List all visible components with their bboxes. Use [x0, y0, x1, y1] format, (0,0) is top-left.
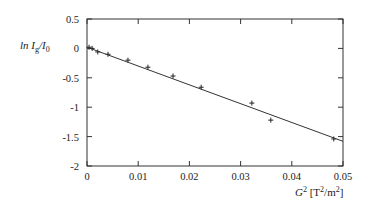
- tick-labels: 00.010.020.030.040.050.50-0.5-1-1.5-2: [62, 14, 352, 182]
- data-point-plus-marker: [268, 118, 273, 123]
- y-tick-label: 0: [74, 43, 79, 54]
- y-tick-label: -2: [70, 161, 79, 172]
- y-label-sub2: 0: [46, 45, 50, 54]
- y-tick-label: -0.5: [62, 73, 79, 84]
- axis-ticks: [87, 19, 343, 166]
- x-label-rest2: /m: [324, 186, 336, 198]
- data-series: [87, 45, 343, 142]
- data-point-plus-marker: [249, 101, 254, 106]
- x-tick-label: 0: [84, 171, 89, 182]
- plot-frame: [87, 19, 343, 166]
- y-tick-label: -1.5: [62, 132, 79, 143]
- x-label-rest3: ]: [340, 186, 344, 198]
- y-tick-label: 0.5: [66, 14, 79, 25]
- x-axis-title: G2 [T2/m2]: [295, 185, 343, 198]
- x-tick-label: 0.05: [334, 171, 352, 182]
- x-tick-label: 0.02: [180, 171, 198, 182]
- x-tick-label: 0.04: [283, 171, 302, 182]
- x-label-main: G: [295, 186, 303, 198]
- chart: 00.010.020.030.040.050.50-0.5-1-1.5-2 ln…: [0, 0, 366, 208]
- y-tick-label: -1: [70, 102, 79, 113]
- y-label-main: ln I: [20, 39, 36, 51]
- x-label-rest1: [T: [307, 186, 320, 198]
- x-tick-label: 0.01: [129, 171, 147, 182]
- y-axis-title: ln Ig/I0: [20, 39, 50, 54]
- fit-line: [87, 47, 343, 141]
- x-tick-label: 0.03: [231, 171, 249, 182]
